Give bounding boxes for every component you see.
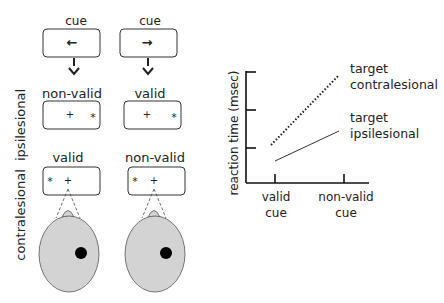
series-label: ipsilesional <box>350 126 419 141</box>
chevron-down-icon <box>69 68 79 74</box>
contra-condition-label: non-valid <box>125 150 185 165</box>
y-axis-label: reaction time (msec) <box>227 70 241 195</box>
x-tick-label: valid <box>262 190 291 204</box>
x-tick-label: cue <box>335 206 357 220</box>
ipsi-condition-label: non-valid <box>42 86 102 101</box>
figure-canvas: ipsilesional contralesional cue ← non-va… <box>0 0 444 303</box>
series-label: contralesional <box>350 77 438 92</box>
series-label: target <box>350 110 388 125</box>
row-label-contralesional: contralesional <box>13 169 28 261</box>
head-icon <box>125 216 185 292</box>
right-arrow-icon: → <box>142 35 153 50</box>
fixation-cross: + <box>143 109 151 120</box>
contra-condition-label: valid <box>52 150 83 165</box>
column-1: cue ← non-valid + * valid * + <box>39 14 102 292</box>
reaction-time-chart: reaction time (msec) target contralesion… <box>227 61 438 220</box>
target-star: * <box>132 175 138 188</box>
head-icon <box>39 216 99 292</box>
chevron-down-icon <box>143 68 153 74</box>
series-contralesional-line <box>271 75 339 145</box>
left-arrow-icon: ← <box>67 35 78 50</box>
column-2: cue → valid + * non-valid * + <box>120 14 185 292</box>
x-tick-label: non-valid <box>318 190 373 204</box>
target-star: * <box>90 111 96 124</box>
cue-label: cue <box>139 14 161 28</box>
lesion-dot <box>75 247 87 259</box>
series-label: target <box>350 61 388 76</box>
row-label-ipsilesional: ipsilesional <box>13 89 28 161</box>
series-ipsilesional-line <box>275 131 339 161</box>
fixation-cross: + <box>64 175 72 186</box>
target-star: * <box>47 175 53 188</box>
ipsi-condition-label: valid <box>134 86 165 101</box>
fixation-cross: + <box>66 109 74 120</box>
x-tick-label: cue <box>265 206 287 220</box>
cue-label: cue <box>65 14 87 28</box>
target-star: * <box>171 111 177 124</box>
lesion-dot <box>160 247 172 259</box>
fixation-cross: + <box>150 175 158 186</box>
